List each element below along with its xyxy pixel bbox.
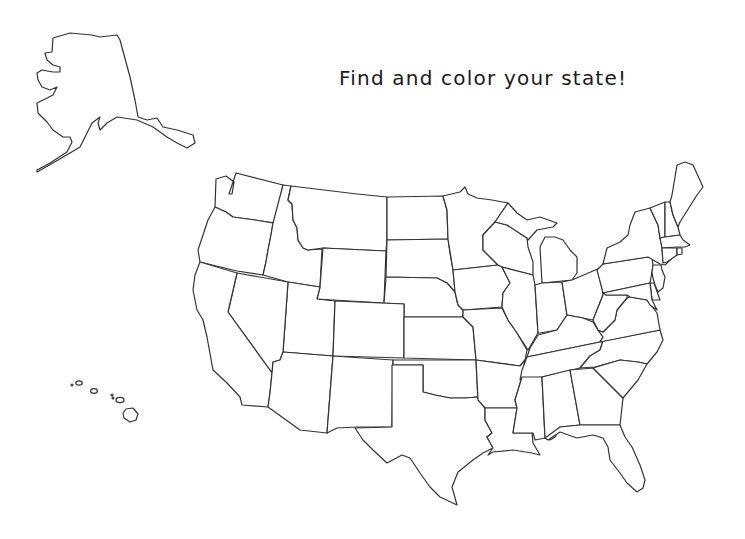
state-massachusetts[interactable]: [660, 235, 690, 248]
hawaii-island-lanai[interactable]: [112, 397, 114, 399]
hawaii-island-kauai[interactable]: [76, 381, 82, 385]
state-iowa[interactable]: [453, 265, 510, 310]
state-maine[interactable]: [670, 162, 703, 227]
state-colorado[interactable]: [333, 301, 404, 358]
hawaii-island-maui[interactable]: [116, 397, 124, 402]
state-montana[interactable]: [288, 186, 387, 251]
hawaii-inset: [71, 381, 138, 422]
hawaii-island-niihau[interactable]: [71, 384, 73, 386]
state-new-mexico[interactable]: [327, 356, 393, 433]
alaska-inset: [37, 33, 195, 172]
state-arizona[interactable]: [268, 352, 333, 433]
state-connecticut[interactable]: [662, 248, 677, 263]
state-alaska[interactable]: [37, 33, 195, 172]
hawaii-island-oahu[interactable]: [91, 389, 98, 394]
us-map: [0, 0, 745, 539]
state-florida[interactable]: [545, 425, 645, 492]
state-wyoming[interactable]: [317, 248, 386, 303]
hawaii-island-big-island[interactable]: [123, 408, 138, 422]
state-north-dakota[interactable]: [387, 196, 448, 240]
state-michigan-lower[interactable]: [540, 237, 577, 283]
state-kansas[interactable]: [404, 317, 476, 360]
hawaii-island-molokai[interactable]: [111, 394, 113, 396]
contiguous-us: [193, 162, 703, 505]
state-rhode-island[interactable]: [677, 248, 682, 255]
